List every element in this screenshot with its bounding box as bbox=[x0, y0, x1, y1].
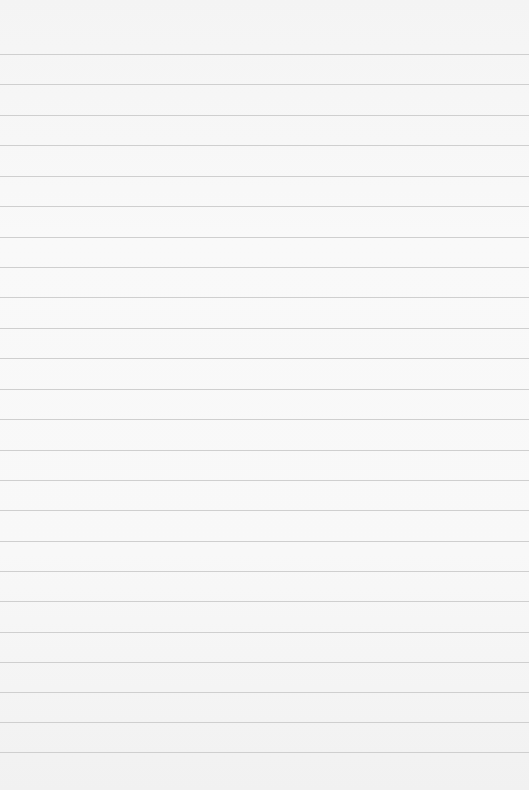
ruled-line bbox=[0, 541, 529, 542]
ruled-line bbox=[0, 115, 529, 116]
ruled-line bbox=[0, 722, 529, 723]
ruled-line bbox=[0, 692, 529, 693]
ruled-line bbox=[0, 358, 529, 359]
ruled-line bbox=[0, 145, 529, 146]
ruled-line bbox=[0, 571, 529, 572]
ruled-line bbox=[0, 328, 529, 329]
ruled-line bbox=[0, 297, 529, 298]
ruled-line bbox=[0, 510, 529, 511]
ruled-line bbox=[0, 752, 529, 753]
ruled-line bbox=[0, 450, 529, 451]
ruled-line bbox=[0, 267, 529, 268]
ruled-line bbox=[0, 389, 529, 390]
ruled-line bbox=[0, 601, 529, 602]
ruled-line bbox=[0, 54, 529, 55]
ruled-line bbox=[0, 419, 529, 420]
ruled-line bbox=[0, 176, 529, 177]
lined-paper bbox=[0, 0, 529, 790]
ruled-line bbox=[0, 662, 529, 663]
ruled-line bbox=[0, 632, 529, 633]
ruled-line bbox=[0, 480, 529, 481]
ruled-line bbox=[0, 84, 529, 85]
ruled-line bbox=[0, 206, 529, 207]
ruled-line bbox=[0, 237, 529, 238]
